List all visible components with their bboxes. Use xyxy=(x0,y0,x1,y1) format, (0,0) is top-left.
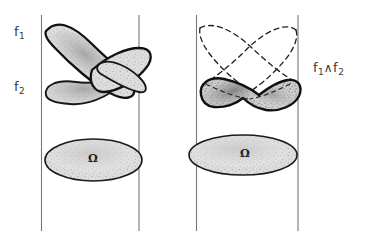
omega-label-left: Ω xyxy=(88,152,98,165)
omega-label-right: Ω xyxy=(240,147,250,160)
label-meet-second-subscript: 2 xyxy=(338,67,344,77)
label-f2-subscript: 2 xyxy=(19,86,25,96)
right-panel-group xyxy=(189,15,302,231)
label-f1: f1 xyxy=(14,24,25,41)
label-f1-meet-f2: f1∧f2 xyxy=(313,60,344,77)
label-f1-subscript: 1 xyxy=(19,31,25,41)
figure-canvas: f1 f2 f1∧f2 Ω Ω xyxy=(0,0,380,251)
label-f2: f2 xyxy=(14,79,25,96)
left-panel-group xyxy=(41,15,151,231)
diagram-svg xyxy=(0,0,380,251)
wedge-operator-icon: ∧ xyxy=(324,61,333,75)
